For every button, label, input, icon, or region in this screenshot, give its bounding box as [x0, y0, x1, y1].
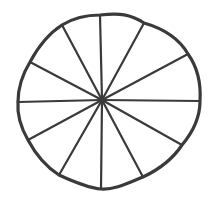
spoke-bottom	[101, 100, 102, 189]
center-point	[99, 97, 104, 102]
circle-drawing	[0, 0, 218, 204]
spoke-left	[18, 100, 102, 102]
spoke-right	[102, 100, 200, 101]
divided-circle-diagram	[0, 0, 218, 204]
spoke-top	[100, 15, 102, 100]
